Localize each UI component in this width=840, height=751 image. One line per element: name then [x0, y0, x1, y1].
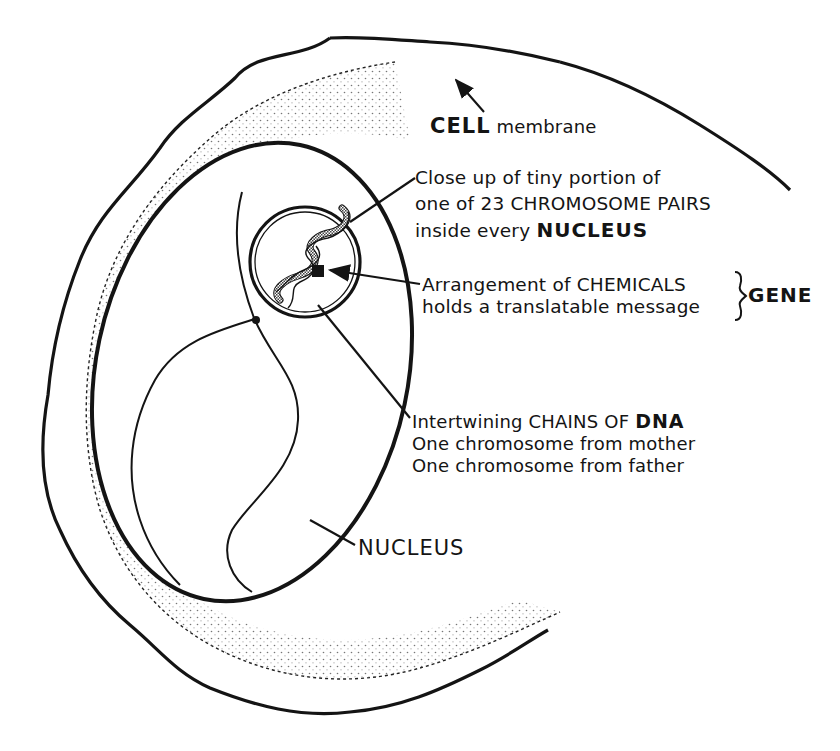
label-dna-line3: One chromosome from father [412, 455, 695, 477]
label-dna-line2: One chromosome from mother [412, 433, 695, 455]
label-cell-membrane: CELL membrane [430, 114, 597, 138]
label-closeup-nucleus: NUCLEUS [536, 218, 648, 242]
gene-segment [312, 265, 324, 277]
label-gene-line1: Arrangement of CHEMICALS [422, 274, 700, 296]
gene-bracket [735, 272, 746, 320]
label-dna: Intertwining CHAINS OF DNA One chromosom… [412, 410, 695, 477]
label-dna-line1: Intertwining CHAINS OF DNA [412, 410, 695, 433]
label-closeup: Close up of tiny portion of one of 23 CH… [415, 165, 711, 244]
leader-cell-membrane [456, 80, 484, 112]
cell-diagram [0, 0, 840, 751]
label-gene-line2: holds a translatable message [422, 296, 700, 318]
label-closeup-line2: one of 23 CHROMOSOME PAIRS [415, 191, 711, 217]
label-membrane-word: membrane [496, 116, 596, 137]
label-nucleus: NUCLEUS [358, 536, 464, 560]
label-cell-word: CELL [430, 114, 491, 138]
label-closeup-line3-prefix: inside every [415, 220, 530, 241]
label-gene: GENE [748, 283, 812, 307]
label-closeup-line1: Close up of tiny portion of [415, 165, 711, 191]
label-dna-word: DNA [635, 410, 684, 432]
label-dna-line1-prefix: Intertwining CHAINS OF [412, 411, 629, 432]
label-gene-description: Arrangement of CHEMICALS holds a transla… [422, 274, 700, 318]
label-closeup-line3: inside every NUCLEUS [415, 217, 711, 244]
